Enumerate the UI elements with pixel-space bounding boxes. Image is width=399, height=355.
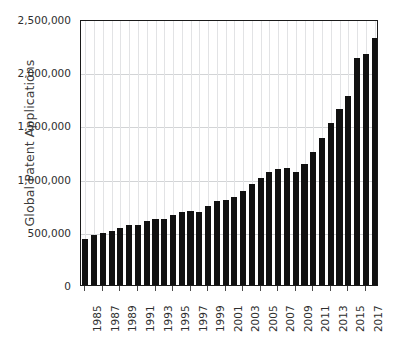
bar: [161, 219, 167, 286]
y-tick-label: 500,000: [28, 227, 71, 239]
x-tick: [242, 286, 243, 291]
bar: [372, 38, 378, 285]
x-tick: [119, 286, 120, 291]
bar: [266, 172, 272, 285]
bar: [152, 219, 158, 285]
bar: [100, 233, 106, 285]
x-tick: [225, 286, 226, 291]
x-tick: [277, 286, 278, 291]
bar: [249, 184, 255, 285]
x-tick: [137, 286, 138, 291]
x-tick-label: 2003: [250, 305, 262, 332]
y-tick-label: 2,000,000: [18, 67, 71, 79]
bar: [240, 191, 246, 285]
bar: [293, 172, 299, 285]
x-tick-label: 1985: [92, 305, 104, 332]
y-tick-label: 2,500,000: [18, 14, 71, 26]
y-tick-label: 1,000,000: [18, 174, 71, 186]
patent-applications-bar-chart: Global Patent Applications 2,500,0002,00…: [0, 0, 399, 355]
bar: [328, 123, 334, 285]
x-axis-tick-labels: 1985198719891991199319951997199920012003…: [80, 292, 378, 352]
bar: [363, 54, 369, 285]
bar: [117, 228, 123, 285]
bar: [214, 201, 220, 285]
plot-area: [80, 20, 378, 286]
x-tick-label: 2011: [320, 305, 332, 332]
y-axis-tick-labels: 2,500,0002,000,0001,500,0001,000,000500,…: [0, 0, 76, 355]
bar: [135, 225, 141, 285]
bar: [144, 221, 150, 285]
x-tick-label: 2001: [232, 305, 244, 332]
bar: [196, 212, 202, 285]
x-tick: [295, 286, 296, 291]
x-tick: [172, 286, 173, 291]
x-tick: [260, 286, 261, 291]
x-tick-label: 2007: [285, 305, 297, 332]
x-tick-label: 2005: [267, 305, 279, 332]
x-tick: [365, 286, 366, 291]
bar: [170, 215, 176, 285]
x-tick-label: 1991: [144, 305, 156, 332]
x-tick-label: 1987: [109, 305, 121, 332]
bar: [319, 138, 325, 285]
x-tick-label: 2015: [355, 305, 367, 332]
x-tick-label: 1999: [214, 305, 226, 332]
bar: [258, 178, 264, 285]
y-tick-label: 0: [64, 280, 71, 292]
x-tick: [190, 286, 191, 291]
x-tick: [102, 286, 103, 291]
x-tick-label: 1997: [197, 305, 209, 332]
x-tick-label: 2009: [302, 305, 314, 332]
x-tick: [207, 286, 208, 291]
x-tick: [347, 286, 348, 291]
x-tick: [330, 286, 331, 291]
bars-layer: [81, 21, 377, 285]
bar: [187, 211, 193, 285]
bar: [91, 235, 97, 285]
x-tick: [155, 286, 156, 291]
bar: [301, 164, 307, 285]
bar: [109, 231, 115, 285]
bar: [205, 206, 211, 285]
bar: [126, 225, 132, 285]
y-tick-label: 1,500,000: [18, 120, 71, 132]
x-tick-label: 1995: [179, 305, 191, 332]
bar: [354, 58, 360, 285]
x-tick: [312, 286, 313, 291]
bar: [345, 96, 351, 285]
bar: [284, 168, 290, 285]
bar: [179, 212, 185, 285]
x-tick-label: 1989: [127, 305, 139, 332]
x-tick-label: 1993: [162, 305, 174, 332]
x-tick-label: 2013: [337, 305, 349, 332]
bar: [82, 239, 88, 285]
bar: [336, 109, 342, 285]
bar: [275, 169, 281, 285]
bar: [231, 197, 237, 285]
x-tick-label: 2017: [372, 305, 384, 332]
bar: [310, 152, 316, 285]
x-tick: [84, 286, 85, 291]
bar: [223, 200, 229, 285]
